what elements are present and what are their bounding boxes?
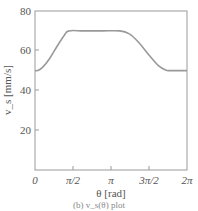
x-axis-label: θ [rad] — [96, 187, 125, 199]
x-tick-label: 0 — [32, 174, 38, 186]
plot-frame — [35, 11, 187, 170]
y-tick-label: 40 — [20, 84, 32, 96]
chart: 20 40 60 80 0 π/2 π 3π/2 2π θ [rad] v_s … — [0, 0, 198, 211]
y-tick-label: 80 — [20, 5, 32, 17]
x-tick-label: 3π/2 — [138, 174, 159, 186]
figure-caption: (b) v_s(θ) plot — [0, 200, 198, 210]
y-axis-label: v_s [mm/s] — [1, 65, 13, 115]
x-tick-label: π/2 — [66, 174, 81, 186]
x-tick-label: 2π — [181, 174, 193, 186]
y-tick-label: 20 — [20, 124, 32, 136]
x-tick-label: π — [108, 174, 114, 186]
x-ticks — [73, 166, 149, 170]
series-line — [35, 31, 187, 71]
y-tick-label: 60 — [20, 44, 32, 56]
y-ticks — [35, 50, 39, 130]
